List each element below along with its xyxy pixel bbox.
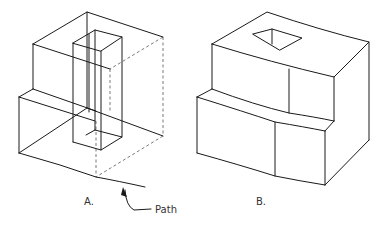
figure-a-block [19, 12, 163, 187]
figure-b: B. [197, 12, 369, 207]
path-label: Path [155, 204, 177, 215]
diagram-canvas: A. Path B. [0, 0, 380, 227]
figure-a-pillar [73, 30, 122, 150]
figure-a-label: A. [84, 196, 94, 207]
figure-a-hidden-lines [96, 37, 163, 177]
figure-b-label: B. [256, 196, 266, 207]
figure-a: A. Path [19, 12, 177, 215]
path-arrow [121, 187, 151, 210]
